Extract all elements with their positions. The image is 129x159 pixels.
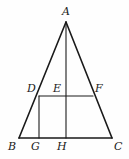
geometry-canvas <box>0 0 129 159</box>
segment-group <box>19 22 112 138</box>
geometry-figure: A B C D E F G H <box>0 0 129 159</box>
segment-side-AC <box>66 22 112 138</box>
vertex-label-D: D <box>27 83 36 94</box>
vertex-label-F: F <box>95 83 103 94</box>
vertex-label-E: E <box>53 83 61 94</box>
vertex-label-G: G <box>31 141 40 152</box>
segment-side-AB <box>19 22 66 138</box>
vertex-label-C: C <box>114 141 122 152</box>
vertex-label-H: H <box>57 141 67 152</box>
vertex-label-A: A <box>62 6 70 17</box>
vertex-label-B: B <box>8 141 16 152</box>
